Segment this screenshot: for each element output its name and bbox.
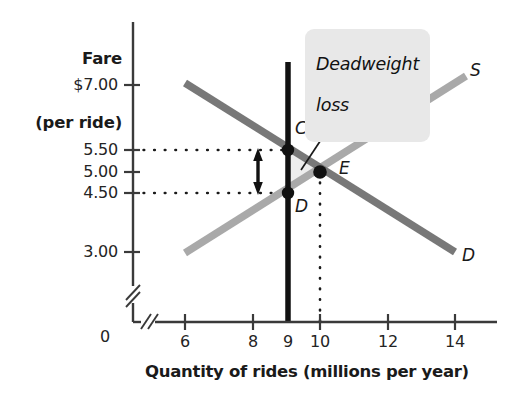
x-tick-label-9: 9 — [271, 332, 305, 351]
callout-line1: Deadweight — [316, 54, 419, 74]
x-tick-label-6: 6 — [168, 332, 202, 351]
y-axis-title-line2: (per ride) — [10, 112, 122, 133]
origin-label: 0 — [90, 327, 120, 346]
x-tick-label-8: 8 — [236, 332, 270, 351]
deadweight-loss-callout: Deadweight loss — [305, 29, 430, 142]
point-marker-e — [313, 165, 327, 179]
y-tick-label-550: 5.50 — [20, 140, 118, 159]
deadweight-loss-chart: Fare (per ride) $7.00 5.50 5.00 4.50 3.0… — [0, 0, 514, 404]
y-tick-label-500: 5.00 — [20, 162, 118, 181]
demand-curve-label: D — [462, 245, 475, 265]
x-axis-title: Quantity of rides (millions per year) — [107, 362, 507, 381]
y-tick-label-300: 3.00 — [20, 242, 118, 261]
point-label-d: D — [295, 196, 308, 216]
y-axis-break-mark-1 — [126, 285, 140, 300]
wedge-arrow-icon — [253, 148, 263, 195]
x-tick-label-14: 14 — [438, 332, 472, 351]
y-tick-label-7: $7.00 — [20, 75, 118, 94]
x-tick-label-12: 12 — [371, 332, 405, 351]
y-axis-title-line1: Fare — [10, 48, 122, 69]
y-tick-label-450: 4.50 — [20, 183, 118, 202]
point-marker-d — [282, 187, 294, 199]
x-tick-label-10: 10 — [303, 332, 337, 351]
supply-curve-label: S — [470, 60, 481, 80]
callout-line2: loss — [316, 95, 419, 115]
point-label-e: E — [339, 158, 350, 178]
point-marker-c — [282, 144, 294, 156]
